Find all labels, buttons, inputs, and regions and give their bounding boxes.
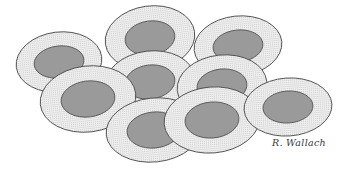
artist-signature: R. Wallach	[271, 137, 326, 148]
cell-illustration: R. Wallach	[0, 0, 342, 175]
cell-diagram-canvas: R. Wallach	[0, 0, 342, 175]
